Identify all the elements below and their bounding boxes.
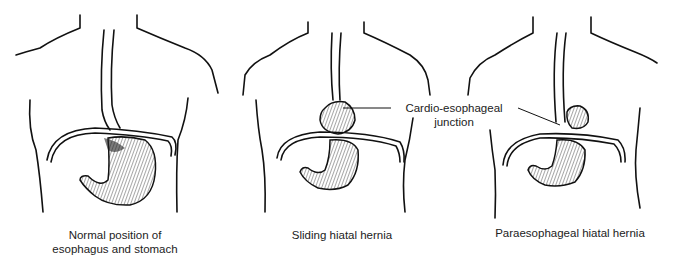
herniated-stomach <box>320 102 355 134</box>
stomach <box>528 140 585 186</box>
esophagus <box>101 30 120 130</box>
stomach <box>300 140 358 190</box>
annotation-line2: junction <box>392 115 516 129</box>
herniated-fundus <box>567 106 588 129</box>
caption-sliding: Sliding hiatal hernia <box>262 228 422 242</box>
esophagus <box>554 33 566 122</box>
caption-line1: Sliding hiatal hernia <box>262 228 422 242</box>
annotation-line1: Cardio-esophageal <box>392 101 516 115</box>
esophagus <box>331 33 341 100</box>
caption-line2: esophagus and stomach <box>25 242 205 255</box>
annotation-label: Cardio-esophageal junction <box>392 101 516 129</box>
caption-line1: Paraesophageal hiatal hernia <box>480 226 660 240</box>
diagram-canvas <box>0 0 676 255</box>
panel-normal-figure <box>16 15 218 212</box>
stomach <box>80 137 156 205</box>
caption-line1: Normal position of <box>25 228 205 242</box>
caption-paraesophageal: Paraesophageal hiatal hernia <box>480 226 660 240</box>
caption-normal: Normal position of esophagus and stomach <box>25 228 205 255</box>
leader-line-paraesophageal <box>518 108 560 125</box>
